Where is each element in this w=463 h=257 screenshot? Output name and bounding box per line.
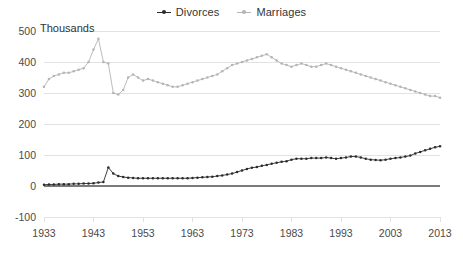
x-axis-tick-label: 1983 bbox=[280, 227, 304, 239]
data-point bbox=[270, 162, 273, 165]
data-point bbox=[53, 183, 56, 186]
data-point bbox=[181, 177, 184, 180]
data-point bbox=[246, 59, 249, 62]
data-point bbox=[206, 76, 209, 79]
data-point bbox=[409, 89, 412, 92]
data-point bbox=[216, 73, 219, 76]
data-point bbox=[63, 183, 66, 186]
data-point bbox=[127, 176, 130, 179]
data-point bbox=[369, 158, 372, 161]
data-point bbox=[315, 157, 318, 160]
data-point bbox=[360, 156, 363, 159]
data-point bbox=[345, 69, 348, 72]
series-line bbox=[44, 39, 440, 98]
data-point bbox=[72, 70, 75, 73]
data-point bbox=[201, 176, 204, 179]
data-point bbox=[157, 177, 160, 180]
data-point bbox=[389, 82, 392, 85]
data-point bbox=[374, 78, 377, 81]
data-point bbox=[310, 65, 313, 68]
data-point bbox=[107, 62, 110, 65]
data-point bbox=[256, 166, 259, 169]
data-point bbox=[127, 76, 130, 79]
data-point bbox=[63, 72, 66, 75]
series-line bbox=[44, 146, 440, 184]
data-point bbox=[97, 38, 100, 41]
data-point bbox=[176, 86, 179, 89]
data-point bbox=[231, 64, 234, 67]
data-point bbox=[231, 172, 234, 175]
data-point bbox=[132, 73, 135, 76]
data-point bbox=[112, 172, 115, 175]
data-point bbox=[176, 177, 179, 180]
data-point bbox=[251, 166, 254, 169]
data-point bbox=[365, 75, 368, 78]
data-point bbox=[171, 177, 174, 180]
y-axis-tick-label: 0 bbox=[30, 180, 36, 192]
data-point bbox=[320, 157, 323, 160]
data-point bbox=[152, 177, 155, 180]
data-point bbox=[434, 95, 437, 98]
data-point bbox=[147, 78, 150, 81]
data-point bbox=[72, 183, 75, 186]
data-point bbox=[300, 157, 303, 160]
data-point bbox=[429, 95, 432, 98]
data-point bbox=[379, 79, 382, 82]
data-point bbox=[162, 82, 165, 85]
data-point bbox=[355, 72, 358, 75]
data-point bbox=[429, 148, 432, 151]
x-axis-tick-label: 1933 bbox=[32, 227, 56, 239]
data-point bbox=[107, 166, 110, 169]
x-axis-tick-label: 2013 bbox=[428, 227, 452, 239]
data-point bbox=[246, 168, 249, 171]
data-point bbox=[280, 62, 283, 65]
data-point bbox=[201, 78, 204, 81]
data-point bbox=[191, 177, 194, 180]
data-point bbox=[157, 81, 160, 84]
data-point bbox=[68, 183, 71, 186]
data-point bbox=[439, 96, 442, 99]
data-point bbox=[241, 169, 244, 172]
data-point bbox=[102, 61, 105, 64]
data-point bbox=[112, 92, 115, 95]
y-axis-tick-label: 400 bbox=[18, 56, 36, 68]
data-point bbox=[384, 81, 387, 84]
data-point bbox=[181, 84, 184, 87]
data-point bbox=[315, 65, 318, 68]
data-point bbox=[68, 72, 71, 75]
data-point bbox=[369, 76, 372, 79]
chart-plot-area: 5004003002001000-10019331943195319631973… bbox=[0, 0, 463, 257]
data-point bbox=[399, 156, 402, 159]
data-point bbox=[300, 62, 303, 65]
data-point bbox=[97, 181, 100, 184]
data-point bbox=[196, 79, 199, 82]
data-point bbox=[409, 154, 412, 157]
data-point bbox=[48, 78, 51, 81]
y-axis-tick-label: -100 bbox=[15, 211, 36, 223]
data-point bbox=[365, 157, 368, 160]
data-point bbox=[53, 75, 56, 78]
data-point bbox=[48, 183, 51, 186]
data-point bbox=[305, 64, 308, 67]
data-point bbox=[43, 184, 46, 187]
data-point bbox=[266, 164, 269, 167]
data-point bbox=[92, 48, 95, 51]
data-point bbox=[310, 157, 313, 160]
x-axis-tick-label: 2003 bbox=[379, 227, 403, 239]
data-point bbox=[285, 64, 288, 67]
y-axis-unit-label: Thousands bbox=[40, 22, 94, 34]
data-point bbox=[340, 157, 343, 160]
y-axis-tick-label: 500 bbox=[18, 25, 36, 37]
data-point bbox=[275, 162, 278, 165]
data-point bbox=[384, 158, 387, 161]
data-point bbox=[439, 145, 442, 148]
data-point bbox=[87, 61, 90, 64]
data-point bbox=[77, 69, 80, 72]
data-point bbox=[241, 61, 244, 64]
data-point bbox=[360, 73, 363, 76]
data-point bbox=[345, 156, 348, 159]
data-point bbox=[236, 62, 239, 65]
data-point bbox=[167, 177, 170, 180]
data-point bbox=[102, 181, 105, 184]
series-divorces bbox=[43, 145, 442, 186]
